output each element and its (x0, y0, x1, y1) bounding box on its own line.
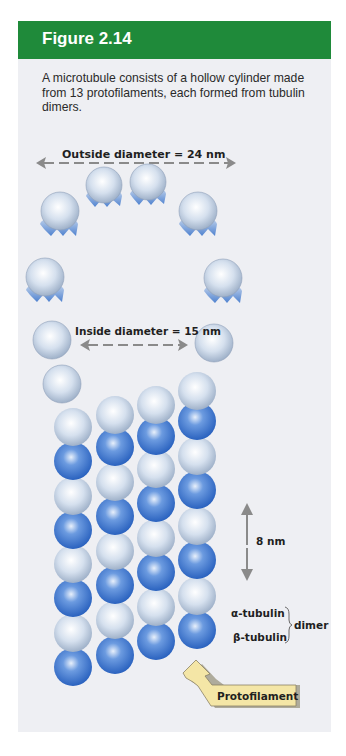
inside-diameter-arrow-icon (80, 339, 188, 351)
dimer-label: dimer (294, 619, 329, 631)
ring-subunit (43, 365, 81, 403)
outside-diameter-label: Outside diameter = 24 nm (62, 148, 225, 161)
microtubule-diagram: Outside diameter = 24 nm (0, 0, 346, 756)
protofilament-callout: Protofilament (183, 660, 300, 708)
protofilament-column (54, 408, 92, 686)
protofilament-column (178, 372, 216, 649)
protofilament-column (137, 386, 175, 660)
protofilament-lattice (54, 372, 216, 686)
ring-subunit (204, 259, 242, 303)
ring-subunit (130, 164, 166, 205)
ring-subunit (179, 192, 217, 236)
protofilament-column (96, 396, 134, 674)
microtubule-cross-section (26, 164, 242, 403)
ring-subunit (33, 321, 71, 359)
beta-tubulin-label: β-tubulin (233, 631, 287, 643)
protofilament-label: Protofilament (217, 690, 298, 702)
spacing-arrow-icon (241, 503, 253, 581)
spacing-label: 8 nm (256, 535, 285, 547)
ring-subunit (40, 192, 79, 236)
inside-diameter-label: Inside diameter = 15 nm (75, 325, 221, 337)
ring-subunit (86, 167, 122, 207)
alpha-tubulin-label: α-tubulin (231, 607, 285, 619)
ring-subunit (26, 258, 64, 302)
